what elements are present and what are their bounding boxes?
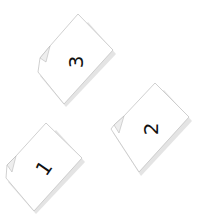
- page-2: 2: [111, 83, 192, 176]
- page-3: 3: [38, 14, 116, 107]
- page-1: 1: [6, 123, 85, 214]
- page-2-number: 2: [139, 123, 163, 136]
- pages-illustration: 3 2 1: [0, 0, 198, 224]
- page-3-number: 3: [64, 56, 88, 69]
